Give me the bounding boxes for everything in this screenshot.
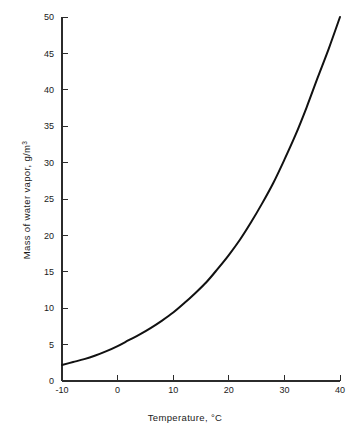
x-tick-label: 10: [168, 385, 178, 395]
x-axis-title: Temperature, °C: [148, 412, 223, 423]
y-axis-tick-labels: 05101520253035404550: [44, 12, 54, 386]
y-axis-ticks: [62, 17, 68, 381]
y-tick-label: 40: [44, 85, 54, 95]
y-tick-label: 45: [44, 49, 54, 59]
x-tick-label: 30: [279, 385, 289, 395]
x-tick-label: 0: [115, 385, 120, 395]
y-tick-label: 10: [44, 303, 54, 313]
chart-svg: 05101520253035404550 -10010203040 Temper…: [0, 0, 354, 442]
y-tick-label: 35: [44, 121, 54, 131]
y-axis-title: Mass of water vapor, g/m3: [21, 141, 33, 260]
y-tick-label: 25: [44, 194, 54, 204]
y-tick-label: 15: [44, 267, 54, 277]
x-tick-label: -10: [55, 385, 68, 395]
y-tick-label: 0: [49, 376, 54, 386]
x-tick-label: 20: [224, 385, 234, 395]
x-axis-tick-labels: -10010203040: [55, 385, 345, 395]
y-tick-label: 30: [44, 158, 54, 168]
chart-figure: 05101520253035404550 -10010203040 Temper…: [0, 0, 354, 442]
x-axis-ticks: [62, 375, 340, 381]
y-tick-label: 50: [44, 12, 54, 22]
x-tick-label: 40: [335, 385, 345, 395]
y-tick-label: 5: [49, 340, 54, 350]
y-tick-label: 20: [44, 231, 54, 241]
data-series-curve: [62, 17, 340, 365]
